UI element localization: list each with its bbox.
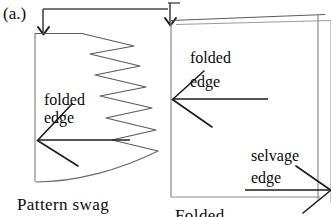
left-folded-edge-label-line2: edge: [44, 110, 74, 126]
right-folded-edge-label-line1: folded: [190, 50, 231, 66]
right-folded-edge-arrow: [173, 71, 269, 127]
right-panel-pointer: [165, 3, 180, 26]
panel-label-a: (a.): [3, 5, 26, 22]
selvage-edge-label-line2: edge: [251, 170, 281, 186]
left-diagram-caption: Pattern swag: [17, 196, 109, 213]
left-folded-edge-label-line1: folded: [44, 92, 85, 108]
panel-a-pointer: [38, 9, 168, 35]
selvage-edge-label-line1: selvage: [251, 148, 299, 164]
figure-canvas: (a.) folded edge folded edge selvage edg…: [0, 0, 331, 217]
right-folded-edge-label-line2: edge: [190, 74, 220, 90]
right-diagram-caption: Folded: [175, 207, 225, 217]
